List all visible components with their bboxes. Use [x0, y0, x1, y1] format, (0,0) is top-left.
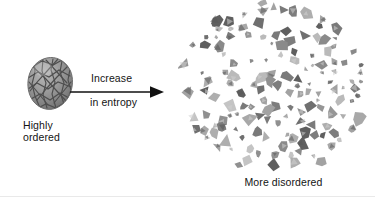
fragment	[309, 130, 319, 140]
fragment	[260, 34, 267, 39]
entropy-diagram-figure: Increase in entropy Highly ordered More …	[0, 0, 375, 198]
fragment	[278, 51, 284, 58]
fragment	[350, 49, 356, 56]
fragment	[264, 58, 268, 62]
fragment	[214, 40, 225, 53]
fragment	[246, 144, 254, 153]
arrow-label-below: in entropy	[90, 97, 137, 108]
fragment	[239, 135, 244, 141]
fragment	[271, 31, 280, 40]
fragment	[203, 110, 211, 119]
fragment	[233, 126, 238, 131]
caption-highly-ordered: Highly ordered	[23, 120, 60, 143]
fragment	[330, 84, 337, 94]
fragment	[253, 17, 264, 29]
fragment	[349, 79, 354, 84]
fragment	[200, 41, 211, 49]
fragment	[317, 104, 325, 112]
fragment	[353, 112, 367, 127]
fragment	[324, 46, 332, 57]
fragment	[335, 94, 345, 106]
fragment	[264, 116, 271, 124]
fragment	[210, 128, 219, 139]
fragment	[304, 101, 317, 113]
fragment	[223, 99, 236, 112]
arrow-head	[150, 86, 164, 98]
fragment	[315, 157, 326, 166]
fragment	[267, 158, 280, 171]
fragment	[297, 136, 309, 150]
fragment	[341, 60, 348, 66]
fragment	[270, 42, 273, 46]
fragment	[240, 102, 249, 109]
caption-more-disordered: More disordered	[0, 177, 375, 189]
fragment	[280, 71, 294, 82]
fragment	[200, 71, 203, 75]
fragment	[291, 48, 298, 57]
fragment	[287, 105, 294, 111]
fragment	[215, 26, 223, 32]
fragment	[257, 85, 265, 94]
fragment	[332, 37, 337, 40]
fragment	[242, 114, 258, 126]
caption-line-1: Highly	[23, 120, 60, 132]
caption-line-2: ordered	[23, 132, 60, 144]
fragment	[219, 134, 231, 146]
fragment	[242, 155, 252, 167]
fragment	[257, 0, 267, 7]
fragment	[226, 32, 235, 40]
bottom-rule	[0, 196, 375, 197]
fragment	[208, 93, 221, 102]
fragment	[359, 80, 363, 84]
fragment	[280, 6, 289, 14]
fragment	[234, 162, 243, 168]
ordered-crystal-sphere	[26, 56, 74, 111]
ordered-sphere-svg	[26, 56, 74, 111]
fragment	[214, 35, 218, 40]
fragment	[293, 74, 302, 83]
disordered-fragment-cloud	[178, 0, 375, 178]
fragment	[252, 126, 262, 137]
fragment	[285, 133, 289, 137]
fragment	[316, 23, 323, 29]
fragment	[315, 91, 321, 97]
fragment	[304, 66, 308, 71]
caption-line-1: More disordered	[245, 176, 323, 188]
fragment	[262, 131, 269, 142]
fragment	[285, 89, 294, 98]
fragment	[320, 132, 326, 139]
fragment	[271, 151, 279, 159]
fragment	[213, 144, 221, 152]
fragment	[314, 60, 328, 70]
fragment	[280, 27, 292, 37]
fragment	[300, 30, 311, 40]
fragment-facet	[222, 71, 226, 75]
fragment	[340, 114, 346, 119]
fragment	[307, 82, 311, 86]
fragment	[222, 52, 226, 57]
fragment	[204, 35, 208, 39]
fragment	[275, 120, 281, 127]
fragment	[250, 59, 254, 63]
fragment	[256, 150, 261, 158]
fragment	[242, 12, 248, 18]
fragment	[328, 128, 339, 138]
fragment	[359, 63, 364, 68]
arrow-label-above: Increase	[91, 73, 132, 84]
fragment	[305, 88, 311, 95]
fragment	[270, 2, 276, 10]
fragment	[318, 34, 331, 45]
fragment-cloud-svg	[178, 0, 375, 178]
